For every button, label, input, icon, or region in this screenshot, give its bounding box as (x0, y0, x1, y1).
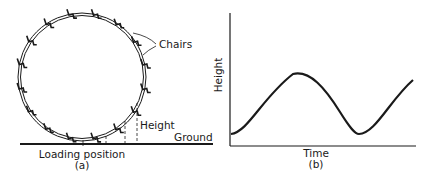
chairs-label: Chairs (159, 38, 192, 50)
chair-icon (131, 106, 141, 115)
panel-a-ferris-wheel: Chairs Height Ground Loading position (a… (17, 9, 213, 171)
panel-b-height-time-graph: Height Time (b) (212, 13, 416, 170)
chairs-arrow-2 (143, 46, 156, 55)
wheel-outer-rim (18, 13, 146, 141)
caption-a: (a) (75, 159, 90, 171)
chairs-arrow-1 (133, 33, 156, 44)
figure: Chairs Height Ground Loading position (a… (0, 0, 428, 181)
caption-b: (b) (309, 158, 324, 170)
chair-icon (114, 19, 124, 28)
wheel-inner-rim (21, 16, 144, 139)
height-curve (231, 73, 413, 134)
height-label: Height (140, 119, 175, 131)
y-axis-label: Height (212, 58, 224, 93)
chair-icons (17, 9, 151, 142)
ground-label: Ground (174, 131, 213, 143)
